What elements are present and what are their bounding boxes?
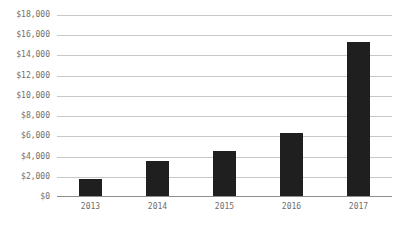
x-tick-label: 2017 [329,201,389,213]
y-tick-label: $4,000 [0,153,50,161]
y-tick-label: $2,000 [0,173,50,181]
bar [146,161,169,197]
x-tick-label: 2016 [262,201,322,213]
x-tick-label: 2015 [195,201,255,213]
y-tick-label: $8,000 [0,112,50,120]
x-tick-label: 2014 [128,201,188,213]
plot-area [57,15,392,197]
y-tick-label: $10,000 [0,92,50,100]
y-tick-label: $18,000 [0,11,50,19]
x-axis: 20132014201520162017 [57,201,392,217]
y-tick-label: $6,000 [0,132,50,140]
y-tick-label: $0 [0,193,50,201]
x-tick-label: 2013 [61,201,121,213]
y-axis: $18,000$16,000$14,000$12,000$10,000$8,00… [0,0,50,227]
bar [347,42,370,197]
bar-chart: $18,000$16,000$14,000$12,000$10,000$8,00… [0,0,397,227]
y-tick-label: $12,000 [0,72,50,80]
x-axis-line [57,196,392,197]
y-tick-label: $16,000 [0,31,50,39]
bar [79,179,102,197]
bars-group [57,15,392,197]
y-tick-label: $14,000 [0,51,50,59]
bar [280,133,303,197]
bar [213,151,236,198]
